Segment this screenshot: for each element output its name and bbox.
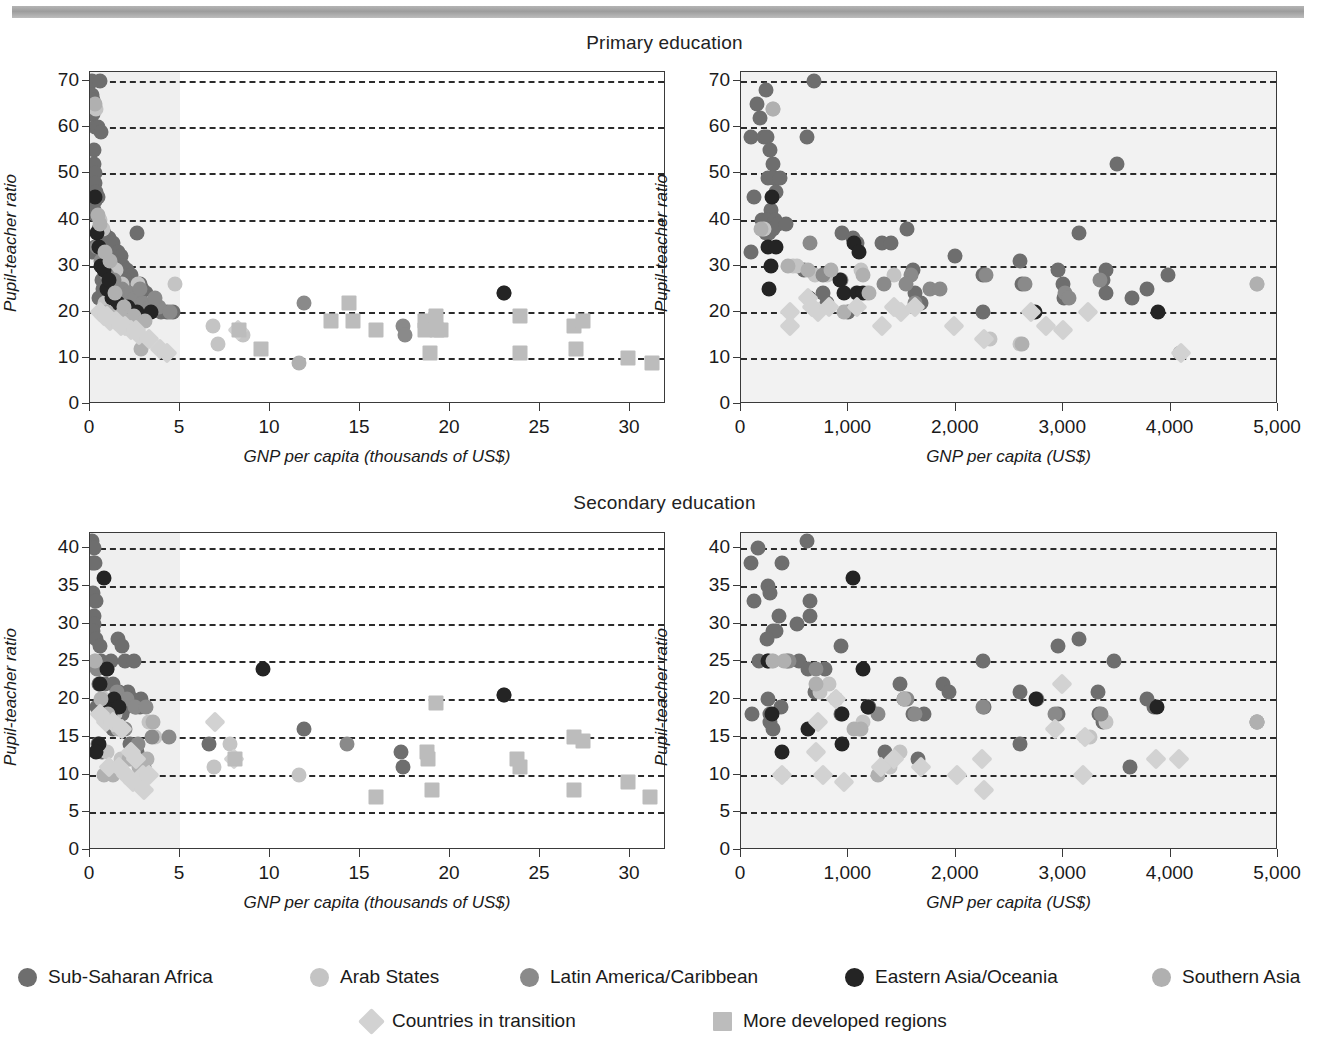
data-point	[1149, 699, 1164, 714]
y-axis-tick-label: 5	[684, 800, 730, 822]
data-point	[834, 737, 849, 752]
y-axis-tick-label: 0	[684, 838, 730, 860]
data-point	[1122, 759, 1137, 774]
data-point	[1106, 654, 1121, 669]
figure-legend: Sub-Saharan AfricaArab StatesLatin Ameri…	[0, 958, 1329, 1046]
x-axis-tick-mark	[740, 849, 741, 857]
x-axis-tick-label: 2,000	[931, 862, 979, 884]
data-point	[897, 692, 912, 707]
data-point	[809, 676, 824, 691]
data-point	[1090, 684, 1105, 699]
data-point	[975, 654, 990, 669]
data-point	[1013, 737, 1028, 752]
legend-marker-circle-icon	[18, 968, 37, 987]
legend-label: Sub-Saharan Africa	[48, 966, 213, 988]
data-point	[751, 541, 766, 556]
x-axis-title: GNP per capita (US$)	[740, 893, 1277, 913]
y-axis-tick-mark	[733, 623, 740, 624]
x-axis-tick-mark	[847, 849, 848, 857]
legend-row: Countries in transitionMore developed re…	[0, 1002, 1329, 1046]
data-point	[834, 707, 849, 722]
data-point	[746, 593, 761, 608]
y-axis-tick-label: 15	[684, 725, 730, 747]
legend-item[interactable]: Arab States	[310, 966, 439, 988]
data-point	[1029, 692, 1044, 707]
data-point	[774, 556, 789, 571]
plot-area	[740, 532, 1277, 849]
legend-marker-square-icon	[713, 1012, 732, 1031]
legend-marker-circle-icon	[1152, 968, 1171, 987]
y-axis-tick-label: 10	[684, 763, 730, 785]
y-axis-tick-mark	[733, 811, 740, 812]
data-point	[1013, 684, 1028, 699]
legend-marker-circle-icon	[845, 968, 864, 987]
legend-label: Arab States	[340, 966, 439, 988]
legend-label: More developed regions	[743, 1010, 947, 1032]
y-axis-tick-mark	[733, 585, 740, 586]
data-point	[833, 639, 848, 654]
legend-item[interactable]: Latin America/Caribbean	[520, 966, 758, 988]
x-axis-tick-mark	[1277, 849, 1278, 857]
data-point	[1050, 639, 1065, 654]
data-point	[799, 533, 814, 548]
y-axis-tick-mark	[733, 774, 740, 775]
data-point	[774, 744, 789, 759]
data-point	[892, 676, 907, 691]
x-axis-tick-label: 0	[735, 862, 746, 884]
x-axis-tick-label: 4,000	[1146, 862, 1194, 884]
data-point	[766, 722, 781, 737]
x-axis-tick-mark	[955, 849, 956, 857]
y-axis-tick-mark	[733, 547, 740, 548]
data-point	[1072, 631, 1087, 646]
gridline	[741, 624, 1276, 626]
data-point	[744, 707, 759, 722]
y-axis-tick-label: 20	[684, 687, 730, 709]
data-point	[942, 684, 957, 699]
y-axis-tick-label: 25	[684, 649, 730, 671]
gridline	[741, 737, 1276, 739]
data-point	[809, 661, 824, 676]
y-axis-tick-mark	[733, 698, 740, 699]
data-point	[776, 654, 791, 669]
y-axis-tick-label: 30	[684, 612, 730, 634]
y-axis-tick-mark	[733, 660, 740, 661]
data-point	[802, 593, 817, 608]
legend-label: Countries in transition	[392, 1010, 576, 1032]
data-point	[860, 699, 875, 714]
x-axis-tick-label: 5,000	[1253, 862, 1301, 884]
data-point	[845, 571, 860, 586]
legend-label: Eastern Asia/Oceania	[875, 966, 1058, 988]
legend-marker-circle-icon	[520, 968, 539, 987]
data-point	[771, 609, 786, 624]
x-axis-tick-mark	[1062, 849, 1063, 857]
legend-item[interactable]: Southern Asia	[1152, 966, 1300, 988]
data-point	[759, 631, 774, 646]
data-point	[762, 586, 777, 601]
y-axis-tick-mark	[733, 849, 740, 850]
data-point	[765, 707, 780, 722]
data-point	[743, 556, 758, 571]
legend-label: Latin America/Caribbean	[550, 966, 758, 988]
gridline	[741, 586, 1276, 588]
data-point	[975, 699, 990, 714]
gridline	[741, 812, 1276, 814]
legend-item[interactable]: More developed regions	[713, 1010, 947, 1032]
x-axis-tick-mark	[1170, 849, 1171, 857]
data-point	[846, 722, 861, 737]
legend-item[interactable]: Eastern Asia/Oceania	[845, 966, 1058, 988]
chart-panel-secondary-us: 051015202530354001,0002,0003,0004,0005,0…	[0, 0, 1329, 1061]
legend-label: Southern Asia	[1182, 966, 1300, 988]
data-point	[1249, 714, 1264, 729]
x-axis-tick-label: 3,000	[1038, 862, 1086, 884]
x-axis-tick-label: 1,000	[824, 862, 872, 884]
legend-marker-diamond-icon	[358, 1008, 385, 1035]
gridline	[741, 548, 1276, 550]
y-axis-title: Pupil-teacher ratio	[652, 628, 672, 766]
data-point	[802, 609, 817, 624]
data-point	[1093, 707, 1108, 722]
data-point	[789, 616, 804, 631]
y-axis-tick-label: 40	[684, 536, 730, 558]
legend-item[interactable]: Sub-Saharan Africa	[18, 966, 213, 988]
legend-item[interactable]: Countries in transition	[362, 1010, 576, 1032]
data-point	[856, 661, 871, 676]
